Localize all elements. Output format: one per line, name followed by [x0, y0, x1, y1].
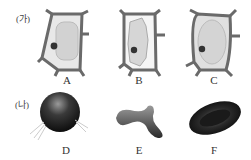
plant-cell-c	[186, 10, 240, 76]
label-b: B	[129, 74, 149, 86]
plant-cell-b	[119, 10, 165, 76]
cell-d-sphere	[30, 92, 88, 140]
plant-cell-a	[38, 10, 89, 76]
label-e: E	[129, 144, 149, 156]
label-c: C	[204, 74, 224, 86]
cell-e-irregular	[116, 106, 163, 138]
label-d: D	[56, 144, 76, 156]
cell-f-rbc	[184, 95, 245, 142]
label-f: F	[204, 144, 224, 156]
label-a: A	[57, 74, 77, 86]
